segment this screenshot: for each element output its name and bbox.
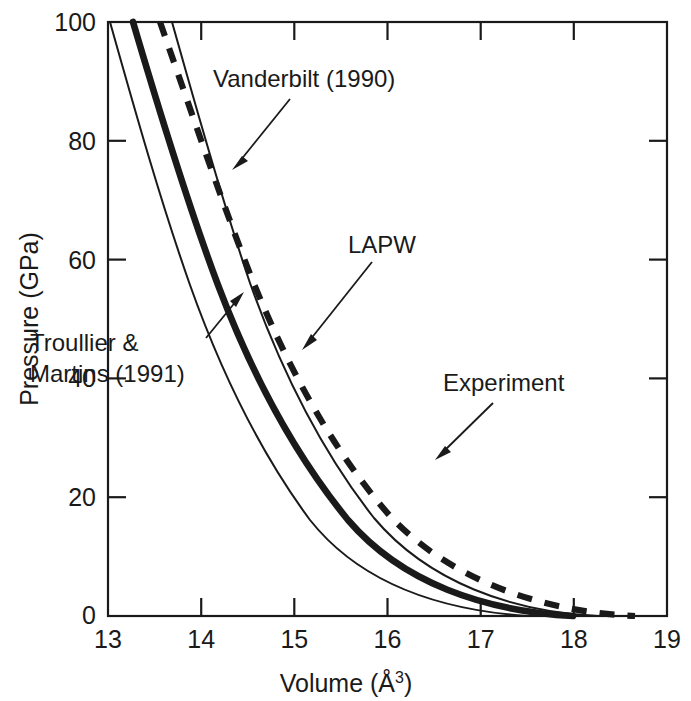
- annotation-vanderbilt-arrowhead: [232, 156, 248, 170]
- curve-lapw: [133, 22, 573, 616]
- x-axis-title-close: ): [404, 669, 412, 697]
- annotation-experiment-leader: [443, 403, 493, 452]
- annotation-lapw: LAPW: [302, 231, 416, 350]
- y-tick-label-80: 80: [68, 127, 96, 155]
- annotation-experiment-arrowhead: [435, 446, 451, 460]
- y-tick-label-0: 0: [82, 601, 96, 629]
- x-axis-title-main: Volume (Å: [280, 668, 396, 697]
- annotation-lapw-label: LAPW: [348, 231, 416, 258]
- y-tick-label-100: 100: [54, 8, 96, 36]
- curve-troullier-martins: [110, 22, 527, 616]
- pressure-volume-figure: 13 14 15 16 17 18 19 0 20 40 60 80 100 V…: [0, 0, 691, 701]
- y-axis-right-ticks: [649, 141, 667, 497]
- y-tick-labels: 0 20 40 60 80 100: [54, 8, 96, 629]
- x-tick-label-19: 19: [653, 625, 681, 653]
- x-tick-label-14: 14: [187, 625, 215, 653]
- y-tick-label-60: 60: [68, 246, 96, 274]
- y-axis-left-ticks: [108, 141, 126, 497]
- x-tick-label-17: 17: [467, 625, 495, 653]
- y-tick-label-20: 20: [68, 483, 96, 511]
- x-axis-title-superscript: 3: [395, 669, 404, 686]
- annotation-vanderbilt-label: Vanderbilt (1990): [213, 65, 395, 92]
- annotation-experiment: Experiment: [435, 369, 565, 460]
- annotation-troullier-line1: Troullier &: [30, 329, 138, 356]
- annotation-lapw-arrowhead: [302, 334, 317, 350]
- annotation-troullier-line2: Martins (1991): [30, 360, 185, 387]
- annotation-vanderbilt-leader: [240, 99, 290, 161]
- x-tick-label-18: 18: [560, 625, 588, 653]
- curve-vanderbilt: [172, 22, 598, 616]
- x-tick-label-13: 13: [94, 625, 122, 653]
- annotation-lapw-leader: [310, 262, 372, 340]
- plot-canvas: 13 14 15 16 17 18 19 0 20 40 60 80 100 V…: [0, 0, 691, 701]
- annotation-vanderbilt: Vanderbilt (1990): [213, 65, 395, 170]
- x-axis-title: Volume (Å3): [280, 668, 413, 697]
- x-tick-label-15: 15: [280, 625, 308, 653]
- x-axis-top-ticks: [201, 22, 574, 40]
- svg-text:Volume (Å3): Volume (Å3): [280, 668, 413, 697]
- x-tick-label-16: 16: [374, 625, 402, 653]
- x-tick-labels: 13 14 15 16 17 18 19: [94, 625, 681, 653]
- annotation-experiment-label: Experiment: [443, 369, 565, 396]
